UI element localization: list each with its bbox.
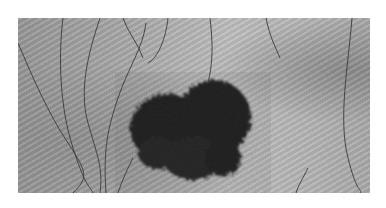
skin-photo <box>18 18 370 193</box>
photo-content <box>18 18 370 193</box>
